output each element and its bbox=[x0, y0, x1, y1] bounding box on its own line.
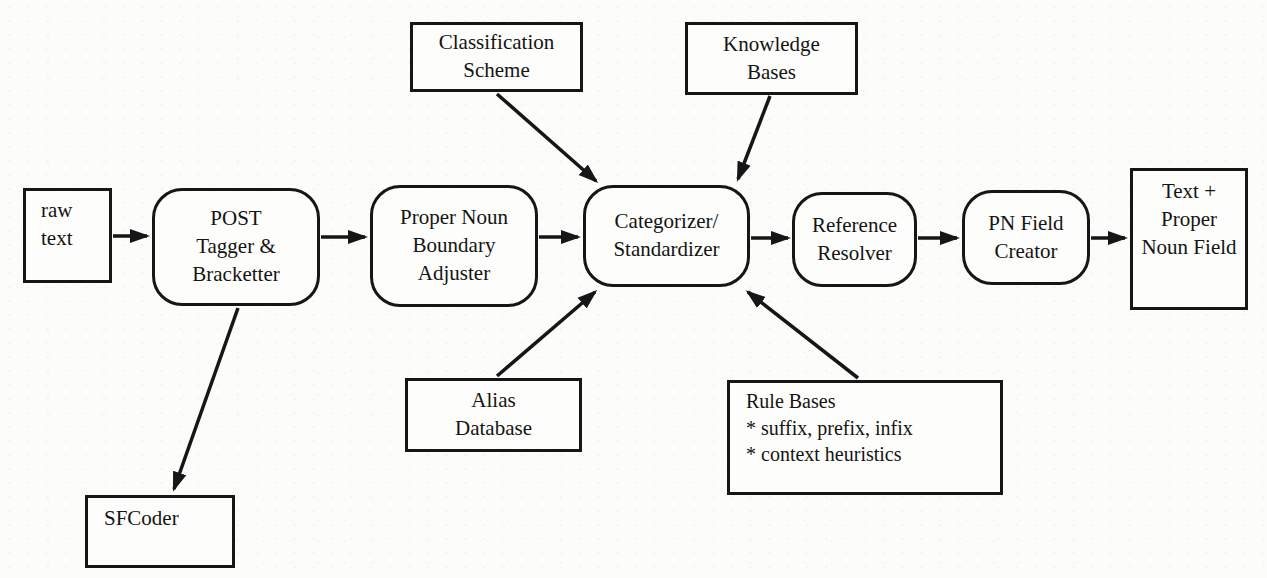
node-sfcoder: SFCoder bbox=[85, 495, 235, 568]
node-raw-text-label: raw text bbox=[41, 197, 73, 253]
node-pn-field-creator: PN Field Creator bbox=[962, 190, 1090, 285]
node-text-proper-noun-field-label: Text + Proper Noun Field bbox=[1141, 178, 1236, 262]
node-post-tagger-bracketter: POST Tagger & Bracketter bbox=[152, 188, 320, 306]
node-pn-field-creator-label: PN Field Creator bbox=[988, 210, 1063, 266]
arrow-rule-bases-to-categorizer bbox=[748, 292, 858, 378]
node-categorizer-standardizer: Categorizer/ Standardizer bbox=[583, 185, 750, 287]
node-rule-bases-label: Rule Bases * suffix, prefix, infix * con… bbox=[746, 388, 913, 468]
arrow-knowledge-bases-to-categorizer bbox=[738, 96, 770, 179]
node-reference-resolver-label: Reference Resolver bbox=[812, 212, 897, 268]
node-raw-text: raw text bbox=[23, 188, 112, 283]
node-classification-scheme: Classification Scheme bbox=[410, 22, 583, 92]
node-alias-database-label: Alias Database bbox=[455, 387, 532, 443]
node-categorizer-standardizer-label: Categorizer/ Standardizer bbox=[613, 208, 719, 264]
node-classification-scheme-label: Classification Scheme bbox=[439, 29, 554, 85]
node-proper-noun-boundary-adjuster: Proper Noun Boundary Adjuster bbox=[370, 185, 538, 307]
arrow-classification-scheme-to-categorizer bbox=[497, 94, 596, 181]
node-post-tagger-bracketter-label: POST Tagger & Bracketter bbox=[192, 205, 279, 289]
node-knowledge-bases: Knowledge Bases bbox=[685, 22, 858, 95]
node-sfcoder-label: SFCoder bbox=[104, 505, 179, 533]
node-alias-database: Alias Database bbox=[405, 378, 582, 452]
node-rule-bases: Rule Bases * suffix, prefix, infix * con… bbox=[727, 380, 1003, 495]
node-proper-noun-boundary-adjuster-label: Proper Noun Boundary Adjuster bbox=[400, 204, 508, 288]
flowchart-figure: raw text POST Tagger & Bracketter Proper… bbox=[0, 0, 1267, 578]
node-text-proper-noun-field: Text + Proper Noun Field bbox=[1130, 168, 1248, 310]
node-reference-resolver: Reference Resolver bbox=[792, 192, 917, 287]
arrow-post-tagger-to-sfcoder bbox=[174, 308, 238, 489]
node-knowledge-bases-label: Knowledge Bases bbox=[723, 31, 820, 87]
